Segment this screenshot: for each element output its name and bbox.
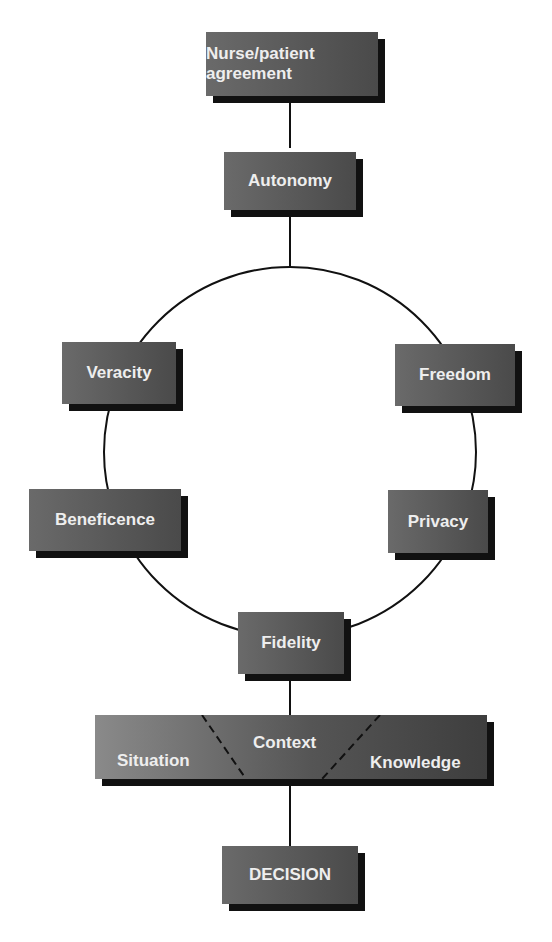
node-nurse-patient-agreement: Nurse/patient agreement — [206, 32, 378, 96]
node-freedom: Freedom — [395, 344, 515, 406]
connector-lines — [0, 0, 552, 942]
node-autonomy: Autonomy — [224, 152, 356, 210]
node-beneficence: Beneficence — [29, 489, 181, 551]
node-label: Privacy — [408, 512, 469, 532]
node-fidelity: Fidelity — [238, 612, 344, 674]
node-veracity: Veracity — [62, 342, 176, 404]
node-decision: DECISION — [222, 846, 358, 904]
context-bar: Situation Context Knowledge — [95, 715, 487, 779]
context-knowledge: Knowledge — [370, 753, 461, 773]
node-privacy: Privacy — [388, 490, 488, 553]
node-label: Veracity — [86, 363, 151, 383]
node-label: Beneficence — [55, 510, 155, 530]
context-context: Context — [253, 733, 316, 753]
node-label: DECISION — [249, 865, 331, 885]
node-label: Freedom — [419, 365, 491, 385]
context-situation: Situation — [117, 751, 190, 771]
node-label: Fidelity — [261, 633, 321, 653]
node-label: Autonomy — [248, 171, 332, 191]
node-label: Nurse/patient agreement — [206, 44, 378, 84]
